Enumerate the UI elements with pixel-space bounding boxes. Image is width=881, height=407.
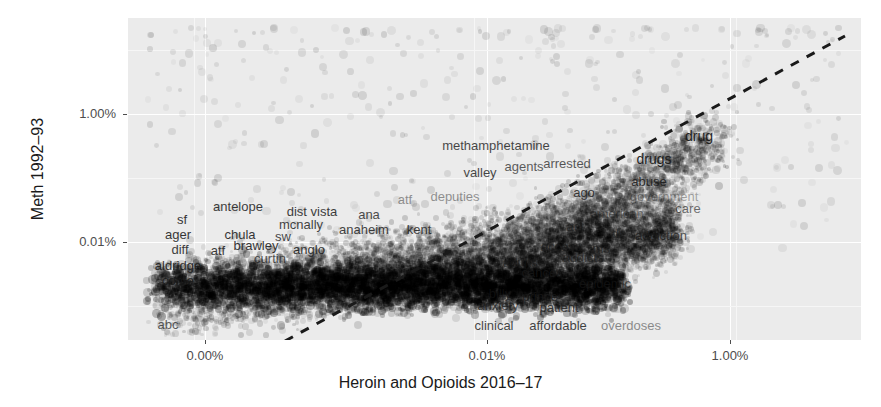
point-label: arrested xyxy=(543,157,591,170)
point-label: care xyxy=(675,202,700,215)
point-label: clinical xyxy=(474,319,513,332)
x-tick-mark-1 xyxy=(487,340,488,344)
point-label: dr xyxy=(611,227,623,240)
point-label: antelope xyxy=(213,200,263,213)
x-axis-title: Heroin and Opioids 2016–17 xyxy=(0,374,881,392)
point-label: anaheim xyxy=(339,223,389,236)
point-label: american xyxy=(590,207,643,220)
point-label: diff xyxy=(171,243,188,256)
point-label: sf xyxy=(177,213,187,226)
y-tick-label-0: 1.00% xyxy=(46,106,116,121)
point-label: act xyxy=(566,220,583,233)
point-label: aldridge xyxy=(155,259,201,272)
point-label: anxiety xyxy=(477,299,518,312)
point-label: drugs xyxy=(636,152,671,166)
x-tick-mark-0 xyxy=(205,340,206,344)
point-label: deputies xyxy=(430,190,479,203)
point-label: methamphetamine xyxy=(442,139,550,152)
point-label: agents xyxy=(504,160,543,173)
point-label: ago xyxy=(573,186,595,199)
point-label: atf xyxy=(398,193,412,206)
point-label: ana xyxy=(358,208,380,221)
y-tick-label-1: 0.01% xyxy=(46,234,116,249)
point-label: ager xyxy=(165,228,191,241)
point-label: abc xyxy=(158,318,179,331)
trendline-path xyxy=(285,36,845,340)
y-tick-mark-0 xyxy=(123,114,127,115)
point-label: cancer xyxy=(521,266,560,279)
point-label: patient xyxy=(539,301,578,314)
point-label: addicts xyxy=(562,251,603,264)
point-label: conte xyxy=(162,274,194,287)
x-tick-label-0: 0.00% xyxy=(175,348,235,363)
point-label: abuse xyxy=(631,175,666,188)
x-tick-mark-2 xyxy=(730,340,731,344)
chart-root: methamphetaminedrugdrugsabusegovernmentc… xyxy=(0,0,881,407)
x-tick-label-1: 0.01% xyxy=(457,348,517,363)
point-label: addiction xyxy=(635,229,687,242)
point-label: drug xyxy=(685,129,713,143)
point-label: valley xyxy=(463,166,496,179)
x-tick-label-2: 1.00% xyxy=(700,348,760,363)
point-label: epidemic xyxy=(579,277,631,290)
plot-panel: methamphetaminedrugdrugsabusegovernmentc… xyxy=(128,18,861,340)
point-label: atf xyxy=(211,244,225,257)
y-axis-title: Meth 1992–93 xyxy=(29,69,47,269)
point-label: anglo xyxy=(293,243,325,256)
point-label: overdoses xyxy=(601,319,661,332)
point-label: curtin xyxy=(254,252,286,265)
point-label: kent xyxy=(407,223,432,236)
point-label: affordable xyxy=(529,319,587,332)
y-tick-mark-1 xyxy=(123,242,127,243)
